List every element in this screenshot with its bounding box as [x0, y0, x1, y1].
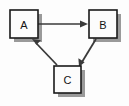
- diagram-canvas: A B C: [0, 0, 129, 106]
- edge-b-c[interactable]: [78, 39, 96, 67]
- node-c[interactable]: C: [54, 66, 81, 93]
- edge-a-b[interactable]: [38, 21, 88, 28]
- node-layer: A B C: [10, 10, 117, 93]
- node-a[interactable]: A: [10, 10, 38, 38]
- node-c-label: C: [64, 74, 72, 86]
- edge-b-c-line: [82, 39, 96, 62]
- graph-svg: A B C: [0, 0, 129, 106]
- edge-a-b-arrowhead: [80, 21, 88, 28]
- edge-c-a[interactable]: [32, 39, 57, 65]
- edge-c-a-line: [36, 43, 57, 65]
- node-b[interactable]: B: [89, 10, 117, 38]
- node-a-label: A: [20, 19, 28, 31]
- node-b-label: B: [99, 19, 106, 31]
